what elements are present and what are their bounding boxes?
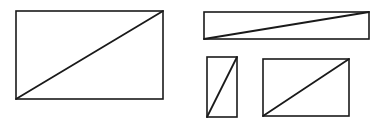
medium-rectangle — [263, 59, 349, 116]
rectangles-with-diagonals-diagram — [0, 0, 374, 118]
medium-rectangle-diagonal — [263, 59, 349, 116]
large-rectangle-diagonal — [16, 11, 163, 99]
shapes-group — [16, 11, 369, 117]
wide-rectangle — [204, 12, 369, 39]
tall-rectangle-diagonal — [207, 57, 237, 117]
tall-rectangle — [207, 57, 237, 117]
large-rectangle — [16, 11, 163, 99]
wide-rectangle-diagonal — [204, 12, 369, 39]
